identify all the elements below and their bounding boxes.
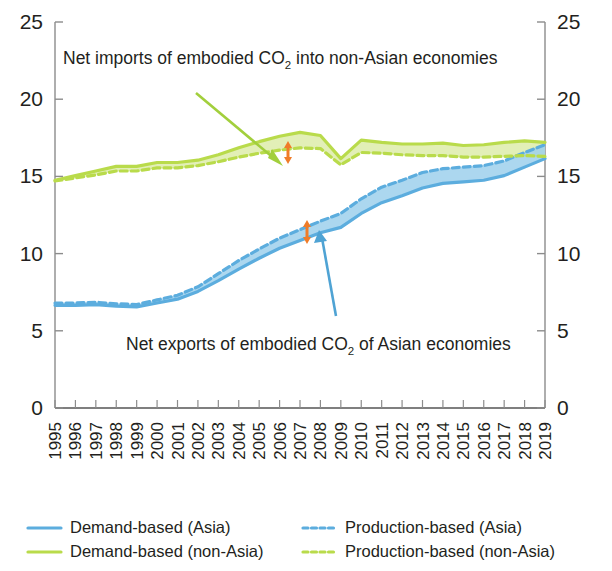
- x-axis-label: 2016: [475, 422, 494, 460]
- x-axis-label: 2014: [434, 422, 453, 460]
- x-axis-label: 2007: [291, 422, 310, 460]
- y-axis-left-label: 10: [20, 242, 43, 265]
- y-axis-left-label: 15: [20, 164, 43, 187]
- x-axis-label: 2008: [311, 422, 330, 460]
- x-axis-label: 2000: [148, 422, 167, 460]
- x-axis-label: 2010: [352, 422, 371, 460]
- x-axis-label: 2009: [332, 422, 351, 460]
- x-axis-label: 1998: [107, 422, 126, 460]
- x-axis-labels: 1995199619971998199920002001200220032004…: [46, 422, 555, 460]
- y-axis-right-label: 0: [557, 396, 569, 419]
- annotation-net-exports: Net exports of embodied CO2 of Asian eco…: [126, 220, 511, 357]
- x-tick-marks: [55, 400, 545, 408]
- y-axis-right-label: 25: [557, 10, 580, 33]
- chart-figure: 2520151050 2520151050 199519961997199819…: [0, 0, 612, 571]
- legend-label: Production-based (non-Asia): [345, 542, 555, 560]
- x-axis-label: 2018: [516, 422, 535, 460]
- y-axis-left-label: 0: [31, 396, 43, 419]
- x-axis-label: 2019: [536, 422, 555, 460]
- y-axis-left-labels: 2520151050: [20, 10, 43, 419]
- series-layer: [55, 132, 545, 306]
- annotation-text: of Asian economies: [354, 334, 511, 354]
- x-axis-label: 2006: [271, 422, 290, 460]
- chart-canvas: 2520151050 2520151050 199519961997199819…: [0, 0, 612, 571]
- chart-legend: Demand-based (Asia)Production-based (Asi…: [28, 518, 555, 560]
- x-axis-label: 2004: [230, 422, 249, 460]
- y-axis-right-label: 15: [557, 164, 580, 187]
- x-axis-label: 2017: [495, 422, 514, 460]
- legend-label: Production-based (Asia): [345, 518, 522, 536]
- x-axis-label: 2001: [169, 422, 188, 460]
- annotation-text: Net imports of embodied CO: [63, 48, 285, 68]
- x-axis-label: 2003: [209, 422, 228, 460]
- x-axis-label: 2002: [189, 422, 208, 460]
- annotation-text: into non-Asian economies: [291, 48, 497, 68]
- y-axis-left-label: 20: [20, 87, 43, 110]
- x-axis-label: 2013: [414, 422, 433, 460]
- x-axis-label: 1997: [87, 422, 106, 460]
- legend-label: Demand-based (Asia): [70, 518, 231, 536]
- x-axis-label: 2012: [393, 422, 412, 460]
- x-axis-label: 1995: [46, 422, 65, 460]
- y-axis-right-label: 5: [557, 319, 569, 342]
- y-axis-right-label: 10: [557, 242, 580, 265]
- y-axis-right-label: 20: [557, 87, 580, 110]
- annotation-arrow-blue: [322, 238, 336, 316]
- annotation-text: Net exports of embodied CO: [126, 334, 348, 354]
- y-axis-left-label: 5: [31, 319, 43, 342]
- x-axis-label: 2005: [250, 422, 269, 460]
- x-axis-label: 1999: [128, 422, 147, 460]
- y-axis-right-labels: 2520151050: [557, 10, 580, 419]
- annotation-label-net-exports: Net exports of embodied CO2 of Asian eco…: [126, 334, 511, 357]
- x-axis-label: 1996: [66, 422, 85, 460]
- legend-label: Demand-based (non-Asia): [70, 542, 264, 560]
- x-axis-label: 2011: [373, 422, 392, 459]
- annotation-label-net-imports: Net imports of embodied CO2 into non-Asi…: [63, 48, 498, 71]
- x-axis-label: 2015: [454, 422, 473, 460]
- y-axis-left-label: 25: [20, 10, 43, 33]
